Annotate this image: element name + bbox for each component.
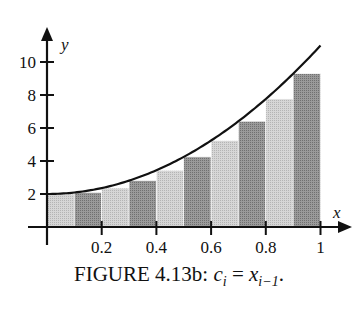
y-tick-label: 4	[28, 152, 37, 171]
x-tick-label: 0.8	[255, 238, 276, 257]
bar	[266, 99, 293, 227]
bar	[238, 121, 265, 227]
y-axis-arrow-icon	[41, 27, 53, 41]
x-tick-label: 0.2	[91, 238, 112, 257]
x-tick-label: 0.4	[146, 238, 168, 257]
bar	[47, 194, 74, 227]
y-tick-label: 2	[28, 185, 37, 204]
x-axis-label: x	[332, 203, 341, 222]
x-tick-label: 1	[316, 238, 325, 257]
caption-math: ci = xi−1.	[213, 262, 283, 286]
bar	[74, 193, 101, 227]
bar	[129, 181, 156, 227]
figure-caption: FIGURE 4.13b: ci = xi−1.	[0, 262, 358, 290]
x-tick-label: 0.6	[200, 238, 221, 257]
bar	[156, 170, 183, 227]
y-tick-label: 8	[28, 86, 37, 105]
bars-group	[47, 74, 321, 227]
bar	[184, 157, 211, 227]
bar	[211, 141, 238, 227]
y-tick-label: 6	[28, 119, 37, 138]
bar	[293, 74, 320, 227]
x-axis-arrow-icon	[338, 221, 352, 233]
y-axis-label: y	[59, 35, 69, 54]
caption-label: FIGURE 4.13b:	[74, 262, 208, 286]
y-tick-label: 10	[19, 53, 36, 72]
bar	[102, 188, 129, 227]
